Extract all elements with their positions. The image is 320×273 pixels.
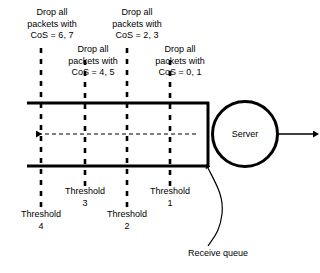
drop-label-cos-0-1: Drop all packets with CoS = 0, 1 (142, 44, 218, 79)
diagram-canvas: Drop all packets with CoS = 6, 7 Drop al… (0, 0, 320, 273)
receive-queue-label: Receive queue (188, 248, 248, 258)
threshold-label-3: Threshold 3 (53, 186, 117, 209)
drop-label-cos-2-3: Drop all packets with CoS = 2, 3 (99, 7, 175, 42)
drop-label-cos-4-5: Drop all packets with CoS = 4, 5 (55, 44, 131, 79)
server-label: Server (215, 129, 275, 139)
receive-queue-callout-line (208, 168, 222, 246)
threshold-label-4: Threshold 4 (9, 209, 73, 232)
threshold-label-2: Threshold 2 (95, 209, 159, 232)
threshold-label-1: Threshold 1 (138, 186, 202, 209)
drop-label-cos-6-7: Drop all packets with CoS = 6, 7 (14, 7, 90, 42)
